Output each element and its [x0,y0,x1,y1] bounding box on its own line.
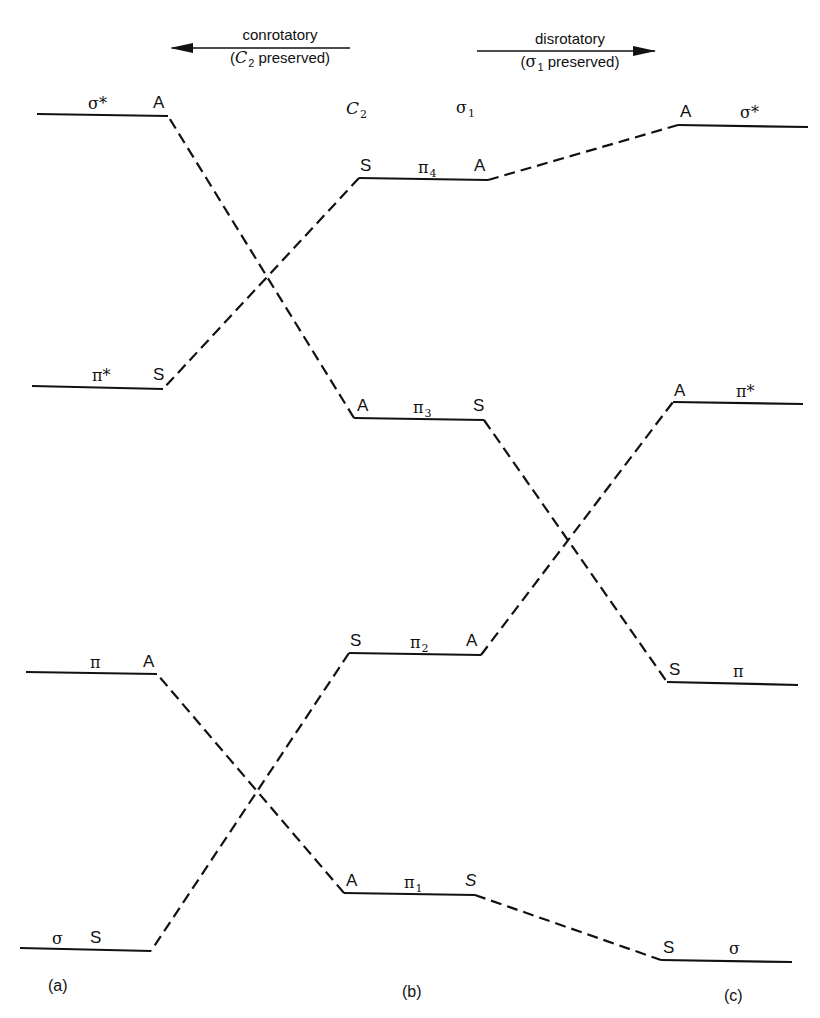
c2-label-b-pi1: A [346,872,357,889]
orbital-label-c-pi: π [733,664,744,680]
disrotatory-label: disrotatory [490,30,650,49]
symmetry-label-a-pi: A [143,653,154,670]
correlation-pi3-pi [484,420,667,682]
panel-label-c: (c) [724,987,743,1005]
panel-label-a: (a) [48,977,68,995]
conrotatory-label: conrotatory [200,26,360,45]
correlation-pi1-sigma [475,895,661,960]
c2-symmetry-label: C2 [346,100,367,120]
correlation-pi4-sigma-star [488,125,678,180]
level-c-pi-star [673,402,803,404]
symmetry-label-c-sigma-star: A [680,103,691,120]
conrotatory-note: (C2 preserved) [200,48,360,71]
conrotatory-header: conrotatory (C2 preserved) [200,26,360,71]
disrotatory-header: disrotatory (σ1 preserved) [490,30,650,75]
symmetry-label-a-sigma-star: A [153,94,164,111]
orbital-label-b-pi2: π2 [410,635,429,654]
sigma-label-b-pi3: S [473,397,484,414]
correlation-diagram [0,0,820,1018]
symmetry-label-c-sigma: S [663,939,674,956]
sigma1-symmetry-label: σ1 [456,100,475,119]
c2-label-b-pi2: S [350,632,361,649]
correlation-pi2-pi-star [481,402,673,655]
orbital-label-a-sigma: σ [52,931,63,947]
correlation-pi1-pi [157,674,344,893]
level-c-sigma-star [678,125,808,127]
level-a-sigma [20,948,151,951]
orbital-label-a-pi-star: π* [92,368,111,384]
orbital-label-b-pi3: π3 [413,400,432,419]
orbital-label-b-pi4: π4 [418,160,437,179]
level-a-pi-star [32,386,163,389]
level-c-sigma [661,960,792,962]
panel-label-b: (b) [402,983,422,1001]
symmetry-label-c-pi: S [669,661,680,678]
symmetry-label-a-pi-star: S [153,366,164,383]
correlation-pi3-sigma-star [168,116,354,418]
sigma-label-b-pi2: A [466,632,477,649]
c2-label-b-pi4: S [360,157,371,174]
symmetry-label-c-pi-star: A [674,382,685,399]
c2-label-b-pi3: A [357,397,368,414]
orbital-label-a-sigma-star: σ* [88,96,107,112]
orbital-label-a-pi: π [90,655,101,671]
orbital-label-b-pi1: π1 [404,875,423,894]
sigma-label-b-pi1: S [465,872,476,889]
symmetry-label-a-sigma: S [90,929,101,946]
orbital-label-c-pi-star: π* [736,384,755,400]
disrotatory-note: (σ1 preserved) [490,52,650,75]
orbital-label-c-sigma: σ [729,941,740,957]
correlation-pi2-sigma [151,653,349,951]
correlation-pi4-pi-star [163,178,359,389]
level-c-pi [667,682,798,685]
level-a-sigma-star [37,114,168,116]
orbital-label-c-sigma-star: σ* [740,105,759,121]
sigma-label-b-pi4: A [474,157,485,174]
level-a-pi [26,672,157,674]
